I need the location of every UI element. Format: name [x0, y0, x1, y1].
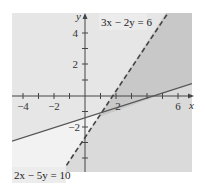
x-axis-label: x [188, 99, 194, 111]
equation-label-top: 3x − 2y = 6 [101, 16, 152, 28]
equation-label-bottom: 2x − 5y = 10 [14, 169, 71, 181]
y-tick-label: 2 [73, 58, 79, 70]
x-tick-label: 6 [175, 100, 181, 112]
inequality-graph: −4 −2 2 6 x 4 2 −2 y 3x − 2y = 6 2x − 5y… [0, 0, 205, 189]
y-axis-label: y [75, 10, 81, 22]
x-tick-label: 2 [115, 100, 121, 112]
y-tick-label: 4 [73, 27, 79, 39]
x-tick-label: −2 [48, 100, 60, 112]
x-tick-label: −4 [17, 100, 29, 112]
